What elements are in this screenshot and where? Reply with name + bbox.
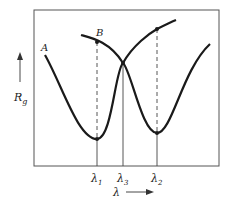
tick-label-lambda2: λ2	[150, 172, 163, 187]
curve-a	[45, 44, 210, 139]
reflectance-diagram: A B Rg λ1 λ3 λ2 λ	[0, 0, 231, 205]
x-axis-arrowhead-icon	[146, 189, 154, 195]
curve-a-label: A	[40, 42, 48, 53]
curve-a-min-lambda2	[155, 131, 159, 135]
tick-label-lambda1: λ1	[90, 172, 102, 187]
x-axis-label: λ	[112, 186, 120, 199]
tick-label-lambda3: λ3	[116, 172, 129, 187]
curve-b-label: B	[95, 27, 103, 38]
curve-b-point-lambda1	[95, 40, 99, 44]
curve-a-min-lambda1	[95, 137, 99, 141]
curve-b-point-lambda2	[155, 27, 159, 31]
y-axis-label: Rg	[13, 91, 27, 106]
crossing-point	[121, 61, 125, 65]
y-axis-arrowhead-icon	[17, 52, 23, 60]
